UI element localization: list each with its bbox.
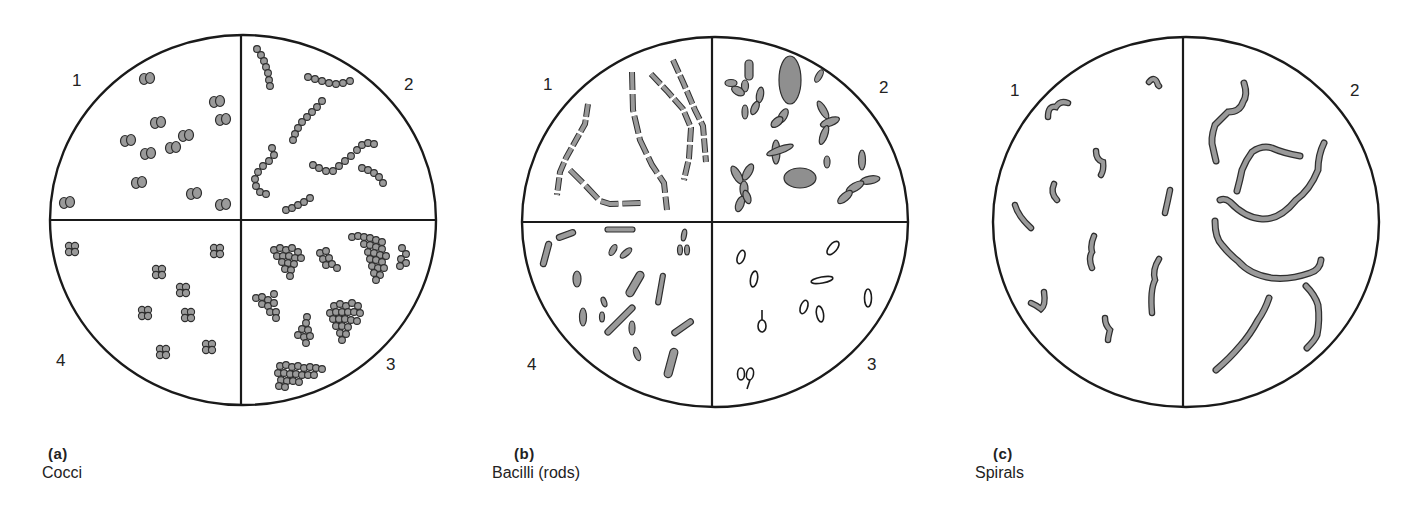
caption-letter: (b) (514, 445, 580, 462)
half-label-1: 1 (1010, 81, 1019, 100)
panel-spirals: 1 2 (993, 37, 1379, 407)
vibrio-group (1015, 79, 1170, 340)
bacteria-morphology-figure: 1 2 3 4 (0, 0, 1417, 524)
quadrant-label-4: 4 (56, 351, 65, 370)
quadrant-label-2: 2 (879, 78, 888, 97)
quadrant-label-2: 2 (404, 75, 413, 94)
spirillum-group (1212, 83, 1324, 370)
half-label-2: 2 (1350, 81, 1359, 100)
caption-cocci: (a) Cocci (42, 445, 82, 482)
quadrant-label-4: 4 (527, 355, 536, 374)
panel-bacilli: 1 2 3 4 (522, 37, 909, 407)
caption-title: Cocci (42, 464, 82, 482)
single-bacilli-group (540, 227, 695, 379)
streptococci-group (252, 46, 387, 214)
caption-spirals: (c) Spirals (975, 445, 1024, 482)
streptobacilli-group (557, 60, 706, 210)
quadrant-label-3: 3 (386, 355, 395, 374)
caption-bacilli: (b) Bacilli (rods) (492, 445, 580, 482)
half-labels: 1 2 (1010, 81, 1359, 100)
caption-letter: (a) (48, 445, 82, 462)
caption-letter: (c) (993, 445, 1024, 462)
tetrads-group (65, 242, 223, 358)
field-circle (993, 37, 1379, 407)
corynebacteria-group (725, 56, 881, 213)
endospore-bacilli-group (735, 239, 871, 389)
quadrant-label-1: 1 (543, 75, 552, 94)
quadrant-label-1: 1 (72, 71, 81, 90)
caption-title: Spirals (975, 464, 1024, 482)
panel-cocci: 1 2 3 4 (50, 35, 436, 405)
caption-title: Bacilli (rods) (492, 464, 580, 482)
quadrant-label-3: 3 (867, 355, 876, 374)
quadrant-labels: 1 2 3 4 (56, 71, 413, 374)
diplococci-group (60, 73, 231, 211)
